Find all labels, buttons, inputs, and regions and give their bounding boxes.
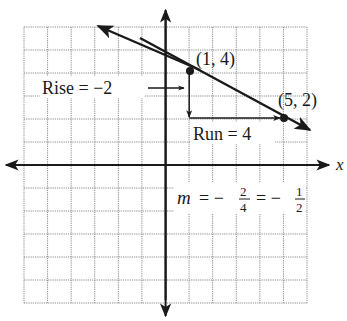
slope-den1: 4 [240,200,247,215]
point-5-2 [280,114,288,122]
point-1-4-label: (1, 4) [196,49,235,70]
rise-label: Rise = −2 [42,78,112,98]
slope-line-back [98,26,200,70]
slope-eq1: = − [199,188,224,208]
slope-eq2: = − [256,188,281,208]
x-axis-label: x [335,155,344,174]
point-1-4 [186,67,194,75]
slope-den2: 2 [296,200,303,215]
run-label: Run = 4 [193,124,251,144]
point-5-2-label: (5, 2) [278,90,317,111]
slope-m: m [177,187,191,208]
slope-num1: 2 [240,184,247,199]
slope-diagram: x (1, 4) (5, 2) Rise = −2 Run = 4 m = − … [0,0,347,321]
slope-formula: m = − 2 4 = − 1 2 [174,183,306,215]
slope-num2: 1 [296,184,303,199]
